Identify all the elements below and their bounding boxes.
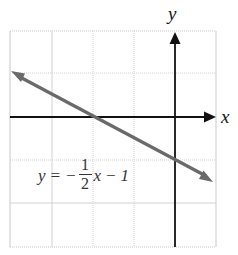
x-axis [10,112,216,123]
equation-lhs: y [38,167,46,184]
x-axis-label: x [221,107,229,126]
equation-constant: 1 [121,167,130,184]
graph-figure: y x y = − 1 2 x − 1 [0,0,238,255]
equation-variable-x: x [94,167,102,184]
y-axis-label: y [168,4,176,23]
y-axis [170,32,181,247]
equation-fraction-one-half: 1 2 [79,157,92,192]
equation-equals-sign: = [50,167,61,184]
grid-vertical-lines [10,31,216,247]
equation-annotation: y = − 1 2 x − 1 [38,158,129,193]
fraction-numerator: 1 [80,157,90,174]
grid-horizontal-lines [10,31,216,247]
equation-leading-minus: − [65,167,76,184]
fraction-denominator: 2 [80,175,90,192]
graph-canvas [0,0,238,255]
equation-trailing-minus: − [105,167,116,184]
